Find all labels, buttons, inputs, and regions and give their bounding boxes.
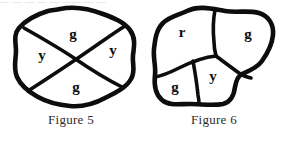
figure-5-label-bottom: g (72, 79, 80, 95)
figure-page: — — — — — —— — — g y y g Figure 5 (0, 0, 285, 142)
figure-5-caption: Figure 5 (0, 112, 142, 128)
figure-6-label-lower-left: g (171, 79, 179, 95)
figure-5: g y y g Figure 5 (0, 0, 142, 142)
figure-6-caption: Figure 6 (143, 112, 285, 128)
figure-5-label-top: g (69, 26, 77, 42)
figure-5-label-right: y (109, 42, 117, 58)
figure-6: r g g y Figure 6 (143, 0, 285, 142)
figure-6-label-upper-left: r (179, 24, 186, 40)
figure-6-diagram: r g g y (143, 0, 285, 115)
figure-5-diagram: g y y g (0, 0, 142, 115)
figure-6-label-lower-center: y (209, 68, 217, 84)
figure-5-label-left: y (38, 47, 46, 63)
figure-6-label-upper-right: g (244, 26, 252, 42)
